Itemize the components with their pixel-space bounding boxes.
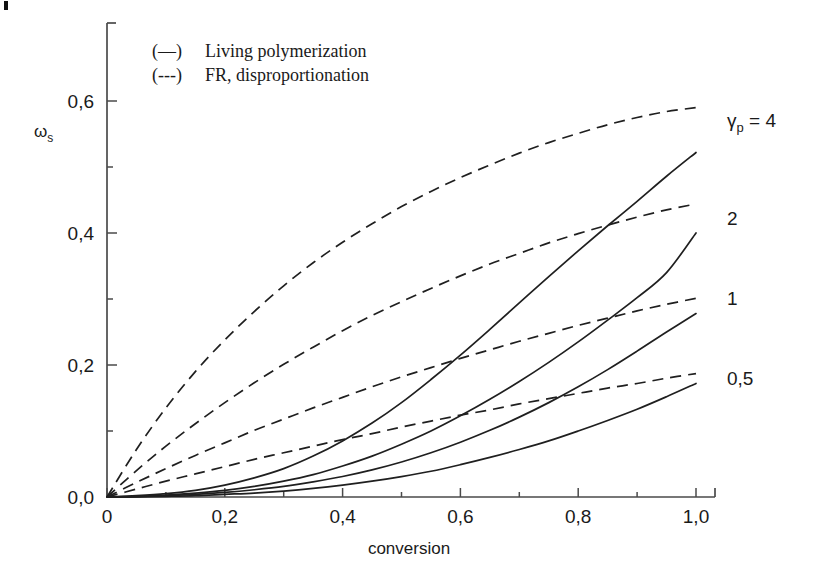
chart-svg: 00,20,40,60,81,00,00,20,40,6 γp = 4210,5…: [0, 0, 818, 580]
curve-solid-gamma-1: [107, 314, 696, 497]
x-tick-label-0: 0: [102, 506, 113, 527]
curve-label-1: 2: [727, 208, 738, 229]
y-axis-title: ωs: [34, 122, 53, 145]
y-tick-label-3: 0,6: [68, 91, 94, 112]
curve-dashed-gamma-1: [107, 298, 696, 497]
tick-labels-group: 00,20,40,60,81,00,00,20,40,6: [68, 91, 710, 527]
gamma-symbol: γ: [727, 110, 737, 131]
curve-label-3: 0,5: [727, 368, 753, 389]
y-tick-label-2: 0,4: [68, 223, 95, 244]
chart-figure: 00,20,40,60,81,00,00,20,40,6 γp = 4210,5…: [0, 0, 818, 580]
legend: (—)Living polymerization(---)FR, disprop…: [152, 41, 369, 86]
omega-subscript: s: [47, 131, 53, 145]
legend-label-1: FR, disproportionation: [205, 65, 369, 85]
gamma-rest: = 4: [744, 110, 777, 131]
x-tick-label-5: 1,0: [683, 506, 709, 527]
x-tick-label-1: 0,2: [212, 506, 238, 527]
curve-dashed-gamma-4: [107, 108, 696, 497]
y-tick-label-0: 0,0: [68, 487, 94, 508]
legend-marker-0: (—): [152, 41, 182, 62]
omega-symbol: ω: [34, 122, 47, 141]
y-axis-title-text: ωs: [34, 122, 53, 145]
y-tick-label-1: 0,2: [68, 355, 94, 376]
ticks-group: [107, 101, 696, 497]
x-tick-label-4: 0,8: [565, 506, 591, 527]
curves-group: [107, 108, 696, 497]
curve-dashed-gamma-2: [107, 204, 696, 497]
curve-solid-gamma-0-5: [107, 383, 696, 497]
x-tick-label-2: 0,4: [329, 506, 356, 527]
curve-dashed-gamma-0-5: [107, 374, 696, 497]
x-axis-title-text: conversion: [368, 539, 450, 558]
x-tick-label-3: 0,6: [447, 506, 473, 527]
curve-label-0: γp = 4: [727, 110, 776, 135]
curve-solid-gamma-2: [107, 233, 696, 497]
curve-label-2: 1: [727, 288, 738, 309]
gamma-subscript: p: [737, 120, 744, 135]
scan-artifact-speck: [4, 1, 8, 10]
curve-labels-group: γp = 4210,5: [727, 110, 776, 389]
legend-marker-1: (---): [152, 65, 182, 86]
curve-solid-gamma-4: [107, 152, 696, 497]
legend-label-0: Living polymerization: [205, 41, 366, 61]
